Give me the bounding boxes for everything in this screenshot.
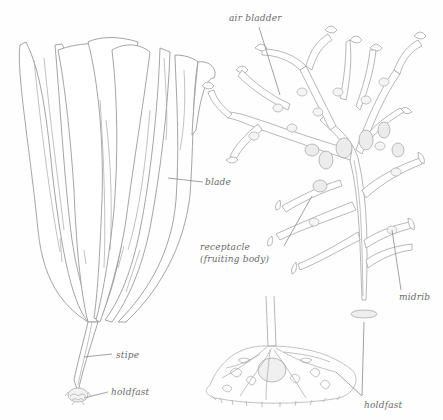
seaweed-anatomy-diagram: air bladder blade receptacle (fruiting b…	[0, 0, 443, 420]
bladderwrack-plant	[202, 26, 426, 318]
label-holdfast-left: holdfast	[111, 387, 149, 397]
enlarged-holdfast-drawing	[206, 296, 356, 407]
label-blade: blade	[205, 177, 231, 187]
illustration	[0, 0, 443, 420]
label-air-bladder: air bladder	[229, 13, 282, 23]
kelp-holdfast-drawing	[65, 388, 91, 405]
label-midrib: midrib	[399, 292, 430, 302]
label-receptacle: receptacle	[200, 242, 250, 252]
label-fruiting-body: (fruiting body)	[200, 254, 269, 264]
label-holdfast-right: holdfast	[364, 400, 402, 410]
wrack-holdfast-disc	[351, 310, 377, 318]
label-stipe: stipe	[116, 350, 139, 360]
